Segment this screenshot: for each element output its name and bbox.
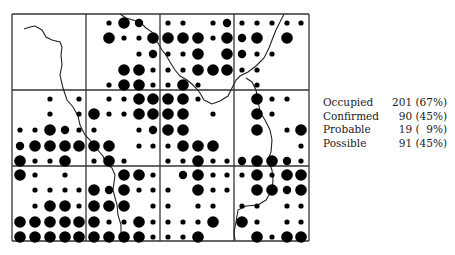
occurrence-dot — [254, 82, 259, 87]
occurrence-dot — [162, 93, 174, 105]
occurrence-dot — [221, 32, 233, 44]
occurrence-dot — [61, 126, 69, 134]
occurrence-dot — [298, 203, 303, 208]
occurrence-dot — [147, 108, 159, 120]
occurrence-dot — [254, 203, 259, 208]
occurrence-dot — [29, 231, 41, 243]
occurrence-dot — [210, 111, 215, 116]
occurrence-dot — [44, 140, 56, 152]
occurrence-dot — [59, 155, 71, 167]
occurrence-dot — [195, 82, 200, 87]
occurrence-dot — [44, 216, 56, 228]
occurrence-dot — [16, 142, 24, 150]
occurrence-dot — [162, 32, 174, 44]
occurrence-dot — [210, 158, 215, 163]
occurrence-dot — [133, 108, 145, 120]
occurrence-dot — [73, 216, 85, 228]
occurrence-dot — [103, 231, 115, 243]
occurrence-dot — [91, 158, 96, 163]
occurrence-dot — [44, 124, 56, 136]
occurrence-dot — [150, 203, 155, 208]
occurrence-dot — [14, 155, 26, 167]
occurrence-dot — [47, 158, 52, 163]
occurrence-dot — [91, 127, 96, 132]
occurrence-dot — [179, 171, 187, 179]
occurrence-dot — [165, 187, 170, 192]
occurrence-dot — [254, 67, 259, 72]
occurrence-dot — [150, 234, 155, 239]
occurrence-dot — [14, 169, 26, 181]
occurrence-dot — [180, 51, 185, 56]
occurrence-dot — [147, 93, 159, 105]
occurrence-dot — [180, 219, 185, 224]
occurrence-dot — [192, 184, 204, 196]
occurrence-dot — [47, 96, 52, 101]
occurrence-dot — [44, 231, 56, 243]
occurrence-dot — [239, 67, 244, 72]
occurrence-dot — [135, 19, 143, 27]
occurrence-dot — [165, 82, 170, 87]
occurrence-dot — [88, 200, 100, 212]
occurrence-dot — [105, 186, 113, 194]
occurrence-dot — [118, 231, 130, 243]
occurrence-dot — [251, 155, 263, 167]
occurrence-dot — [118, 79, 130, 91]
occurrence-dot — [295, 124, 307, 136]
occurrence-dot — [238, 34, 246, 42]
occurrence-dot — [238, 157, 246, 165]
occurrence-dot — [136, 127, 141, 132]
occurrence-dot — [180, 67, 185, 72]
occurrence-dot — [251, 124, 263, 136]
occurrence-dot — [298, 158, 303, 163]
occurrence-dot — [192, 140, 204, 152]
occurrence-dot — [14, 231, 26, 243]
occurrence-dot — [192, 169, 204, 181]
occurrence-dot — [106, 219, 111, 224]
occurrence-dot — [32, 127, 37, 132]
occurrence-dot — [251, 184, 263, 196]
occurrence-dot — [165, 203, 170, 208]
occurrence-dot — [150, 67, 155, 72]
occurrence-dot — [162, 124, 174, 136]
occurrence-dot — [284, 219, 289, 224]
legend-label: Occupied — [323, 96, 373, 110]
occurrence-dot — [118, 64, 130, 76]
occurrence-dot — [14, 216, 26, 228]
occurrence-dot — [238, 50, 246, 58]
occurrence-dot — [133, 93, 145, 105]
occurrence-dot — [121, 219, 126, 224]
occurrence-dot — [59, 200, 71, 212]
occurrence-dot — [103, 32, 115, 44]
occurrence-dot — [121, 158, 126, 163]
occurrence-dot — [239, 172, 244, 177]
occurrence-dot — [29, 140, 41, 152]
occurrence-dot — [298, 143, 303, 148]
occurrence-dot — [192, 48, 204, 60]
occurrence-dot — [177, 32, 189, 44]
occurrence-dot — [133, 79, 145, 91]
occurrence-dot — [88, 140, 100, 152]
occurrence-dot — [76, 203, 81, 208]
occurrence-dot — [47, 111, 52, 116]
occurrence-dot — [165, 51, 170, 56]
legend-value: 201 (67%) — [392, 96, 447, 110]
occurrence-dot — [76, 96, 81, 101]
occurrence-dot — [269, 96, 274, 101]
occurrence-dot — [221, 64, 233, 76]
occurrence-dot — [284, 127, 289, 132]
legend-value: 90 (45%) — [399, 110, 447, 124]
occurrence-dot — [239, 203, 244, 208]
occurrence-dot — [251, 32, 263, 44]
legend: Occupied 201 (67%) Confirmed 90 (45%) Pr… — [323, 96, 447, 150]
occurrence-dot — [59, 231, 71, 243]
occurrence-dot — [239, 20, 244, 25]
occurrence-dot — [207, 64, 219, 76]
occurrence-dot — [106, 111, 111, 116]
legend-row-confirmed: Confirmed 90 (45%) — [323, 110, 447, 124]
occurrence-dot — [295, 169, 307, 181]
occurrence-dot — [254, 219, 259, 224]
occurrence-dot — [165, 158, 170, 163]
occurrence-dot — [88, 216, 100, 228]
occurrence-dot — [76, 187, 81, 192]
occurrence-dot — [195, 219, 200, 224]
